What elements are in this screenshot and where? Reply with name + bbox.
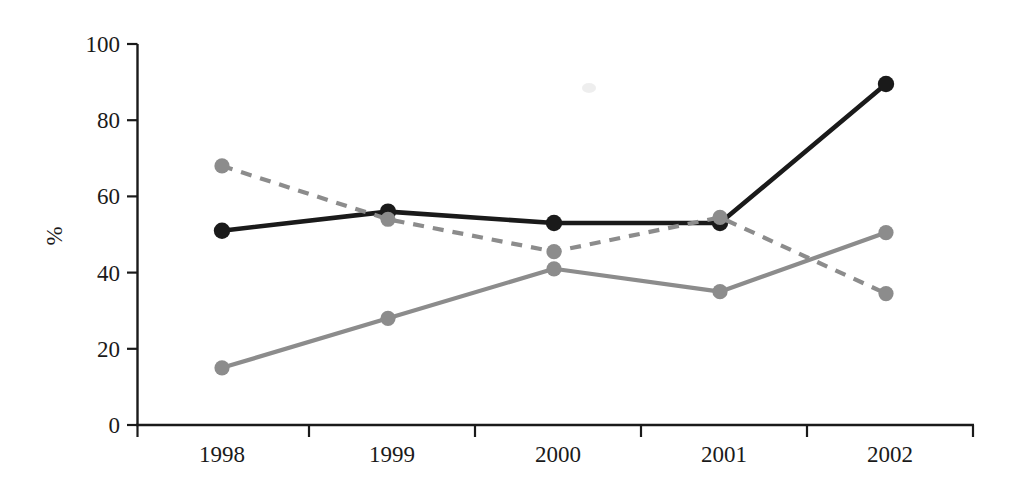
y-tick-label-80: 80 [97, 108, 120, 133]
series-gray-dashed-marker [546, 244, 561, 259]
chart-canvas: 100 80 60 40 20 0 % 1998 1999 2000 2001 … [0, 0, 1019, 488]
x-tick-label-1999: 1999 [369, 442, 415, 467]
y-tick-label-0: 0 [109, 413, 121, 438]
series-gray-dashed-marker [878, 286, 893, 301]
x-tick-label-2000: 2000 [535, 442, 581, 467]
line-chart: 100 80 60 40 20 0 % 1998 1999 2000 2001 … [0, 0, 1019, 488]
series-black-solid-marker [546, 215, 562, 231]
series-gray-solid-marker [546, 261, 561, 276]
y-axis-title: % [42, 226, 67, 245]
series-gray-solid-marker [712, 284, 727, 299]
x-tick-label-2002: 2002 [867, 442, 913, 467]
series-gray-dashed-marker [712, 210, 727, 225]
y-tick-label-40: 40 [97, 261, 120, 286]
series-gray-solid-marker [380, 311, 395, 326]
series-gray-dashed-marker [380, 212, 395, 227]
y-tick-label-20: 20 [97, 337, 120, 362]
series-gray-solid-marker [878, 225, 893, 240]
series-black-solid-marker [214, 222, 230, 238]
y-tick-label-100: 100 [86, 32, 121, 57]
x-tick-label-1998: 1998 [199, 442, 245, 467]
y-tick-label-60: 60 [97, 184, 120, 209]
series-gray-dashed-marker [214, 158, 229, 173]
series-black-solid-marker [878, 76, 894, 92]
x-tick-label-2001: 2001 [701, 442, 747, 467]
scan-artifact [582, 83, 596, 93]
chart-background [0, 0, 1019, 488]
series-gray-solid-marker [214, 360, 229, 375]
